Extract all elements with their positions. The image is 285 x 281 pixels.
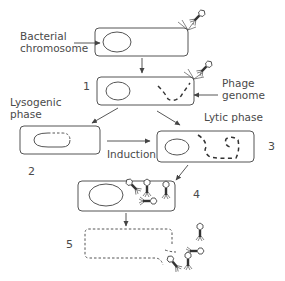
arrow-to-lysogenic xyxy=(92,108,118,123)
released-phage-icon-1 xyxy=(196,223,204,241)
cell-step-5-lysed xyxy=(85,229,176,265)
released-phage-icon-4 xyxy=(184,252,192,270)
cell-initial xyxy=(95,28,188,56)
phage-attaching-icon xyxy=(189,8,207,26)
phage-genome-label-1: Phage xyxy=(222,77,255,89)
phage-injecting-icon xyxy=(196,59,214,77)
phage-genome-label-2: genome xyxy=(222,89,265,101)
induction-label: Induction xyxy=(107,148,156,160)
step-2-number: 2 xyxy=(28,165,35,178)
cell-step-3-lytic xyxy=(157,131,254,162)
arrow-to-lytic xyxy=(157,111,180,125)
step-3-number: 3 xyxy=(268,140,275,153)
cell-step-1 xyxy=(97,77,194,105)
bacterial-chromosome-label-2: chromosome xyxy=(20,42,88,54)
phage-life-cycle-diagram: Bacterial chromosome 1 Phage genome Lyso… xyxy=(0,0,285,281)
lytic-phase-label: Lytic phase xyxy=(204,111,263,123)
bacterial-chromosome-label-1: Bacterial xyxy=(20,30,67,42)
step-1-number: 1 xyxy=(83,80,90,93)
lysogenic-phase-label-1: Lysogenic xyxy=(10,96,62,108)
cell-step-4 xyxy=(78,181,175,211)
step-5-number: 5 xyxy=(66,238,73,251)
released-phage-icon-3 xyxy=(165,254,183,273)
arrow-to-step4 xyxy=(176,165,188,180)
step-4-number: 4 xyxy=(193,188,200,201)
lysogenic-phase-label-2: phase xyxy=(10,108,42,120)
cell-step-2-lysogenic xyxy=(20,126,100,154)
